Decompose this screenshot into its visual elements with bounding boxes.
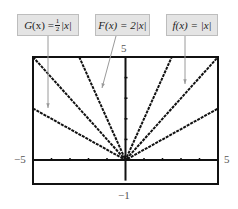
label-G-var: (x) = [32, 19, 54, 31]
x-min-label: −5 [14, 153, 26, 165]
arrow-F [102, 36, 116, 88]
y-max-label: 5 [121, 42, 127, 54]
label-G-name: G [24, 19, 32, 31]
label-f: f(x) = |x| [166, 14, 218, 36]
label-G-abs: |x| [61, 19, 72, 31]
y-min-label: −1 [118, 189, 130, 201]
arrow-G-head [46, 103, 49, 108]
x-max-label: 5 [224, 153, 230, 165]
label-G: G(x) = 12 |x| [17, 14, 79, 36]
label-G-fraction: 12 [55, 18, 60, 33]
fraction-numerator: 1 [56, 18, 60, 25]
arrow-f-head [183, 79, 186, 84]
label-F: F(x) = 2|x| [95, 14, 150, 36]
arrow-F-head [102, 83, 105, 88]
fraction-denominator: 2 [56, 26, 60, 33]
